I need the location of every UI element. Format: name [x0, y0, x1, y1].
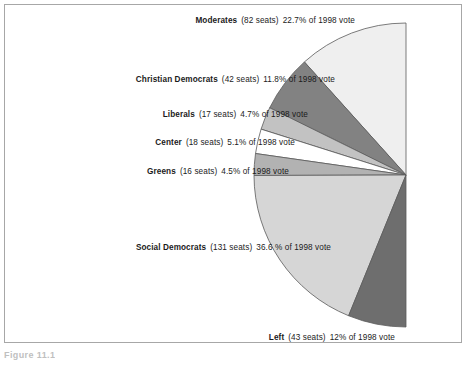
- slice-label-christian-democrats-pct: 11.8% of 1998 vote: [263, 75, 335, 84]
- slice-label-christian-democrats-party: Christian Democrats: [136, 75, 218, 84]
- slice-label-left-seats: (43 seats): [288, 333, 325, 342]
- figure-container: , Moderates(82 seats)22.7% of 1998 vote …: [0, 0, 473, 366]
- slice-label-social-democrats: Social Democrats(131 seats)36.6 % of 199…: [15, 242, 331, 253]
- slice-label-liberals: Liberals(17 seats)4.7% of 1998 vote: [55, 109, 308, 120]
- slice-label-social-democrats-seats: (131 seats): [210, 243, 252, 252]
- slice-label-greens-seats: (16 seats): [180, 167, 217, 176]
- slice-label-liberals-party: Liberals: [163, 110, 195, 119]
- figure-caption: Figure 11.1: [4, 350, 55, 362]
- slice-label-liberals-seats: (17 seats): [199, 110, 236, 119]
- slice-label-moderates-pct: 22.7% of 1998 vote: [283, 16, 355, 25]
- slice-label-center-party: Center: [155, 138, 182, 147]
- slice-label-greens-pct: 4.5% of 1998 vote: [221, 167, 289, 176]
- slice-label-left: Left(43 seats)12% of 1998 vote: [155, 332, 395, 343]
- slice-label-left-party: Left: [269, 333, 284, 342]
- slice-label-moderates: Moderates(82 seats)22.7% of 1998 vote: [155, 15, 355, 26]
- chart-frame: , Moderates(82 seats)22.7% of 1998 vote …: [4, 4, 462, 343]
- slice-label-moderates-seats: (82 seats): [241, 16, 278, 25]
- slice-label-christian-democrats-seats: (42 seats): [222, 75, 259, 84]
- slice-label-christian-democrats: Christian Democrats(42 seats)11.8% of 19…: [45, 74, 335, 85]
- slice-label-liberals-pct: 4.7% of 1998 vote: [240, 110, 308, 119]
- slice-label-social-democrats-party: Social Democrats: [136, 243, 206, 252]
- slice-label-social-democrats-pct: 36.6 % of 1998 vote: [256, 243, 331, 252]
- slice-label-center-pct: 5.1% of 1998 vote: [227, 138, 295, 147]
- slice-label-moderates-party: Moderates: [195, 16, 237, 25]
- slice-label-greens: Greens(16 seats)4.5% of 1998 vote: [35, 166, 289, 177]
- center-mark-artifact: ,: [361, 165, 364, 169]
- slice-label-center-seats: (18 seats): [186, 138, 223, 147]
- slice-label-greens-party: Greens: [147, 167, 176, 176]
- slice-label-left-pct: 12% of 1998 vote: [330, 333, 395, 342]
- slice-label-center: Center(18 seats)5.1% of 1998 vote: [45, 137, 295, 148]
